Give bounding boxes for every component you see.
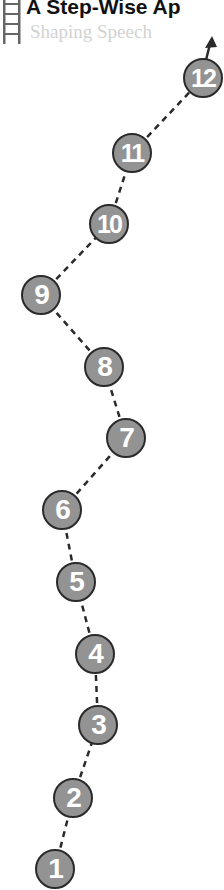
step-circle-11: 11: [112, 133, 152, 173]
arrow-up-icon: [205, 36, 217, 48]
step-circle-10: 10: [89, 204, 129, 244]
step-circle-2: 2: [53, 778, 93, 818]
step-number: 6: [55, 494, 69, 526]
step-circle-5: 5: [56, 562, 96, 602]
step-number: 11: [121, 139, 143, 168]
step-circle-12: 12: [183, 58, 223, 98]
step-circle-1: 1: [35, 849, 75, 889]
step-circle-9: 9: [21, 275, 61, 315]
step-circle-4: 4: [75, 634, 115, 674]
step-number: 4: [88, 638, 102, 670]
step-number: 7: [119, 422, 133, 454]
step-number: 2: [66, 782, 80, 814]
step-number: 9: [34, 279, 48, 311]
step-number: 1: [48, 853, 62, 885]
step-number: 10: [97, 210, 121, 239]
step-number: 8: [97, 351, 111, 383]
step-number: 12: [191, 64, 215, 93]
step-circle-8: 8: [84, 347, 124, 387]
step-circle-6: 6: [42, 490, 82, 530]
step-circle-3: 3: [78, 705, 118, 745]
step-number: 5: [69, 566, 83, 598]
step-number: 3: [91, 709, 105, 741]
step-circle-7: 7: [106, 418, 146, 458]
